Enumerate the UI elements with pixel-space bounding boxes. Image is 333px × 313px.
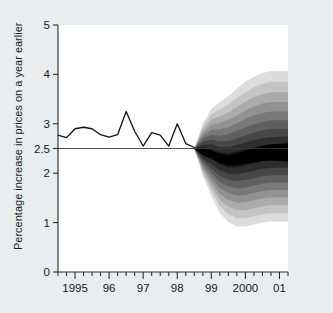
y-tick-label: 2 [44, 167, 50, 179]
y-tick-label: 0 [44, 266, 50, 278]
y-tick-label: 5 [44, 19, 50, 31]
x-tick-label: 01 [273, 282, 286, 294]
x-tick-label: 2000 [233, 282, 259, 294]
y-tick-label: 3 [44, 118, 50, 130]
y-tick-label: 4 [44, 68, 51, 80]
x-tick-label: 98 [171, 282, 184, 294]
x-tick-label: 97 [137, 282, 150, 294]
x-tick-label: 99 [205, 282, 218, 294]
y-axis-title: Percentage increase in prices on a year … [12, 22, 24, 250]
x-tick-label: 1995 [62, 282, 88, 294]
fan-chart-svg: 0122.5345 199596979899200001 Percentage … [0, 0, 333, 313]
y-tick-label: 1 [44, 217, 50, 229]
fan-chart-figure: 0122.5345 199596979899200001 Percentage … [0, 0, 333, 313]
x-tick-label: 96 [103, 282, 116, 294]
y-tick-label: 2.5 [34, 143, 50, 155]
